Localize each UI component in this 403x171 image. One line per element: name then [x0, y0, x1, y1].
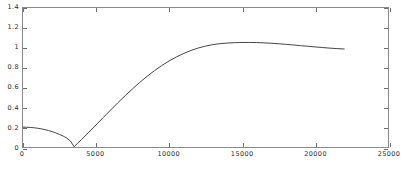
y-tick-mark: [23, 48, 27, 49]
y-tick-mark: [23, 108, 27, 109]
y-tick-label: 0.4: [0, 105, 19, 112]
y-tick-mark: [384, 8, 388, 9]
y-tick-label: 0.2: [0, 125, 19, 132]
x-tick-mark: [390, 143, 391, 147]
x-tick-mark: [96, 8, 97, 12]
x-tick-label: 25000: [359, 151, 403, 158]
x-tick-label: 0: [0, 151, 52, 158]
y-tick-mark: [384, 68, 388, 69]
y-tick-mark: [384, 88, 388, 89]
y-tick-mark: [23, 68, 27, 69]
y-tick-label: 1: [0, 44, 19, 51]
y-tick-mark: [23, 88, 27, 89]
x-tick-label: 15000: [212, 151, 272, 158]
x-tick-label: 20000: [286, 151, 346, 158]
chart-figure: 00.20.40.60.811.21.4 0500010000150002000…: [0, 0, 403, 171]
y-tick-label: 0.8: [0, 64, 19, 71]
x-tick-mark: [169, 143, 170, 147]
plot-area: [22, 7, 389, 148]
x-tick-mark: [243, 8, 244, 12]
y-tick-label: 1.2: [0, 24, 19, 31]
x-tick-mark: [23, 143, 24, 147]
series-line: [23, 42, 344, 146]
x-tick-mark: [316, 143, 317, 147]
x-tick-mark: [316, 8, 317, 12]
y-tick-mark: [384, 28, 388, 29]
x-tick-mark: [390, 8, 391, 12]
data-curve: [23, 8, 388, 147]
x-tick-mark: [169, 8, 170, 12]
y-tick-mark: [23, 28, 27, 29]
x-tick-mark: [243, 143, 244, 147]
y-tick-mark: [384, 108, 388, 109]
x-tick-mark: [23, 8, 24, 12]
y-tick-mark: [384, 48, 388, 49]
y-tick-label: 0.6: [0, 84, 19, 91]
y-tick-mark: [23, 128, 27, 129]
y-tick-label: 1.4: [0, 4, 19, 11]
y-tick-mark: [384, 128, 388, 129]
x-tick-label: 5000: [65, 151, 125, 158]
x-tick-label: 10000: [139, 151, 199, 158]
x-tick-mark: [96, 143, 97, 147]
y-tick-mark: [23, 8, 27, 9]
